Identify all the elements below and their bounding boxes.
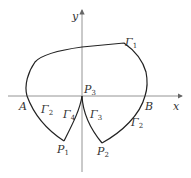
label-P1: P1 — [56, 143, 69, 157]
label-gamma3: Γ3 — [89, 108, 102, 122]
label-P3: P3 — [83, 83, 96, 97]
label-gamma4: Γ4 — [62, 108, 76, 122]
label-P2: P2 — [96, 145, 109, 159]
label-gamma2-right: Γ2 — [130, 116, 143, 130]
y-axis-label: y — [71, 10, 79, 23]
x-axis-label: x — [173, 100, 180, 113]
diagram-canvas: y x A B P3 P1 P2 Γ1 Γ2 Γ4 Γ3 Γ2 — [0, 0, 191, 178]
label-B: B — [144, 100, 153, 113]
label-gamma2-left: Γ2 — [40, 103, 53, 117]
label-A: A — [18, 100, 27, 113]
label-gamma1: Γ1 — [124, 36, 137, 50]
